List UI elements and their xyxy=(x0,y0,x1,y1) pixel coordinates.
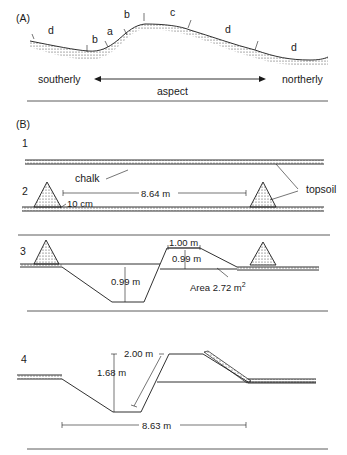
southerly-label: southerly xyxy=(38,73,81,85)
slope-dimension: 2.00 m xyxy=(124,348,153,359)
depth-dimension: 1.68 m xyxy=(97,367,126,378)
northerly-label: northerly xyxy=(282,73,324,85)
stage-3: 3 0.99 m 1.00 m 0.99 m Area 2.72 m2 xyxy=(20,237,319,302)
earthwork-diagram: (A) d b a b c d d southerly northerly as… xyxy=(0,0,347,455)
panel-a-label: (A) xyxy=(16,12,30,24)
slope-soil xyxy=(30,24,328,66)
zone-label-c: c xyxy=(170,6,175,18)
zone-label-d: d xyxy=(291,41,297,53)
zone-label-b: b xyxy=(92,33,98,45)
stage-2: 2 8.64 m 10 cm xyxy=(22,182,324,211)
panel-b-label: (B) xyxy=(16,118,30,130)
stage-number: 2 xyxy=(22,185,28,197)
aspect-arrow-icon xyxy=(94,76,266,82)
stage-number: 3 xyxy=(20,245,26,257)
zone-label-a: a xyxy=(107,25,113,37)
panel-b: (B) 1 chalk topsoil 2 8.64 m xyxy=(16,118,336,449)
panel-a: (A) d b a b c d d southerly northerly as… xyxy=(16,6,328,101)
chalk-label: chalk xyxy=(75,172,100,184)
width-dimension: 8.64 m xyxy=(141,188,170,199)
stage-number: 1 xyxy=(22,137,28,149)
aspect-label: aspect xyxy=(157,85,188,97)
zone-label-b: b xyxy=(124,8,130,20)
stage-4: 4 1.68 m 2.00 m 8.63 m xyxy=(17,348,316,431)
stage-1: 1 chalk topsoil xyxy=(22,137,336,195)
top-width-dimension: 1.00 m xyxy=(169,237,198,248)
topsoil-label: topsoil xyxy=(306,183,336,195)
zone-label-d: d xyxy=(225,23,231,35)
area-label: Area 2.72 m2 xyxy=(190,281,246,293)
bank-height-dimension: 0.99 m xyxy=(172,253,201,264)
width-dimension: 8.63 m xyxy=(142,420,171,431)
depth-dimension: 10 cm xyxy=(67,198,93,209)
zone-label-d: d xyxy=(48,24,54,36)
stage-number: 4 xyxy=(21,353,27,365)
ditch-depth-dimension: 0.99 m xyxy=(111,276,140,287)
